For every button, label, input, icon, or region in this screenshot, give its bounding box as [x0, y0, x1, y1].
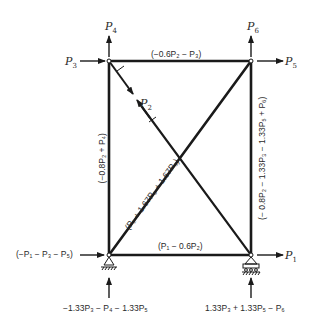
pin-support [101, 257, 117, 270]
p2-arrow-upper [109, 61, 133, 94]
right-member-force-label: (− 0.8P₂ − 1.33P₃ − 1.33P₅ + P₆) [258, 73, 267, 243]
node-top-right [249, 59, 253, 63]
p2-force-pair [109, 61, 156, 122]
cut-tick-upper [117, 66, 124, 71]
p5-sub: 5 [292, 62, 296, 70]
p3-label: P3 [65, 56, 77, 70]
bottom-member-force-label: (P₁ − 0.6P₂) [158, 242, 203, 251]
truss-diagram: P4 P3 P6 P5 P2 P1 (−0.6P₂ − P₃) (P₁ − 0.… [0, 0, 312, 328]
p5-label: P5 [285, 56, 297, 70]
p4-sub: 4 [112, 27, 116, 35]
roller-support [242, 257, 260, 275]
p2-sub: 2 [147, 104, 151, 112]
node-top-left [107, 59, 111, 63]
p4-label: P4 [105, 21, 117, 35]
left-horizontal-reaction-label: (−P₁ − P₃ − P₅) [16, 250, 73, 259]
p2-label: P2 [140, 98, 152, 112]
p1-sub: 1 [292, 256, 296, 264]
p6-sub: 6 [254, 27, 258, 35]
p1-label: P1 [285, 250, 297, 264]
left-vertical-reaction-label: −1.33P₃ − P₄ − 1.33P₅ [63, 304, 148, 313]
left-member-force-label: (−0.8P₂ + P₄) [98, 108, 107, 208]
p6-label: P6 [247, 21, 259, 35]
right-vertical-reaction-label: 1.33P₃ + 1.33P₅ − P₆ [205, 304, 285, 313]
top-member-force-label: (−0.6P₂ − P₃) [151, 50, 201, 59]
p3-sub: 3 [72, 62, 76, 70]
